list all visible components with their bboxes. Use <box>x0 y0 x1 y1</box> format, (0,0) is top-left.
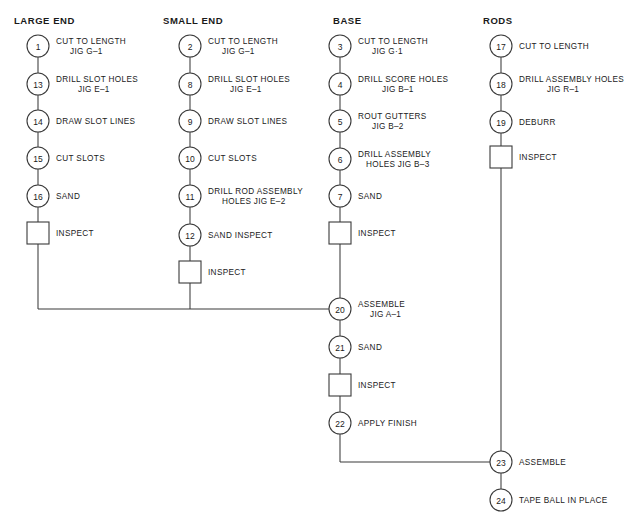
node-label: DRILL SLOT HOLES <box>208 75 290 84</box>
node-label: INSPECT <box>358 381 396 390</box>
node-label: CUT SLOTS <box>56 154 105 163</box>
process-node-12-small-end[interactable]: 12SAND INSPECT <box>179 224 273 246</box>
node-label: APPLY FINISH <box>358 419 417 428</box>
process-node-20-assembly[interactable]: 20ASSEMBLEJIG A–1 <box>329 298 405 320</box>
node-label: CUT TO LENGTH <box>358 37 428 46</box>
node-sublabel: JIG G–1 <box>70 47 103 56</box>
inspection-square <box>329 374 351 396</box>
node-label: ASSEMBLE <box>358 300 405 309</box>
node-number: 2 <box>188 42 193 52</box>
node-label: CUT TO LENGTH <box>208 37 278 46</box>
process-node-23-final[interactable]: 23ASSEMBLE <box>490 451 566 473</box>
node-label: CUT TO LENGTH <box>519 42 589 51</box>
node-sublabel: JIG A–1 <box>370 310 401 319</box>
inspection-square <box>179 261 201 283</box>
node-number: 12 <box>185 231 195 241</box>
assembly-chain-layer: 20ASSEMBLEJIG A–121SANDINSPECT22APPLY FI… <box>329 298 417 434</box>
node-sublabel: JIG E–1 <box>230 85 262 94</box>
process-node-9-small-end[interactable]: 9DRAW SLOT LINES <box>179 110 288 132</box>
process-node-11-small-end[interactable]: 11DRILL ROD ASSEMBLYHOLES JIG E–2 <box>179 185 303 207</box>
node-number: 3 <box>338 42 343 52</box>
node-sublabel: JIG G·1 <box>372 47 403 56</box>
node-label: ROUT GUTTERS <box>358 112 427 121</box>
node-sublabel: JIG E–1 <box>78 85 110 94</box>
node-label: INSPECT <box>358 229 396 238</box>
process-node-17-rods[interactable]: 17CUT TO LENGTH <box>490 35 589 57</box>
node-label: INSPECT <box>519 153 557 162</box>
connector-lines-layer <box>38 309 490 462</box>
process-node-10-small-end[interactable]: 10CUT SLOTS <box>179 147 257 169</box>
process-node-13-large-end[interactable]: 13DRILL SLOT HOLESJIG E–1 <box>27 73 138 95</box>
node-number: 18 <box>496 80 506 90</box>
final-chain-layer: 23ASSEMBLE24TAPE BALL IN PLACE <box>490 451 608 511</box>
flow-chart-canvas: LARGE END1CUT TO LENGTHJIG G–113DRILL SL… <box>0 0 635 526</box>
process-columns-layer: LARGE END1CUT TO LENGTHJIG G–113DRILL SL… <box>14 15 624 462</box>
process-node-2-small-end[interactable]: 2CUT TO LENGTHJIG G–1 <box>179 35 278 57</box>
process-node-15-large-end[interactable]: 15CUT SLOTS <box>27 147 105 169</box>
process-node-1-large-end[interactable]: 1CUT TO LENGTHJIG G–1 <box>27 35 126 57</box>
process-node-inspect-base[interactable]: INSPECT <box>329 222 396 244</box>
process-node-24-final[interactable]: 24TAPE BALL IN PLACE <box>490 489 608 511</box>
node-label: SAND <box>56 192 80 201</box>
node-number: 6 <box>338 155 343 165</box>
process-node-inspect-small-end[interactable]: INSPECT <box>179 261 246 283</box>
process-node-3-base[interactable]: 3CUT TO LENGTHJIG G·1 <box>329 35 428 57</box>
node-number: 4 <box>338 80 343 90</box>
process-node-8-small-end[interactable]: 8DRILL SLOT HOLESJIG E–1 <box>179 73 290 95</box>
node-label: DRILL ROD ASSEMBLY <box>208 187 303 196</box>
node-number: 21 <box>335 343 345 353</box>
node-sublabel: HOLES JIG E–2 <box>222 197 286 206</box>
column-header-small-end: SMALL END <box>163 15 223 26</box>
node-number: 13 <box>33 80 43 90</box>
process-node-inspect-rods[interactable]: INSPECT <box>490 146 557 168</box>
node-number: 14 <box>33 117 43 127</box>
process-node-21-assembly[interactable]: 21SAND <box>329 336 382 358</box>
node-label: DRAW SLOT LINES <box>208 117 288 126</box>
node-number: 5 <box>338 117 343 127</box>
node-number: 10 <box>185 154 195 164</box>
node-label: DRILL ASSEMBLY <box>358 150 431 159</box>
process-node-inspect-large-end[interactable]: INSPECT <box>27 222 94 244</box>
node-label: INSPECT <box>208 268 246 277</box>
inspection-square <box>329 222 351 244</box>
node-number: 8 <box>188 80 193 90</box>
node-label: DRILL ASSEMBLY HOLES <box>519 75 624 84</box>
node-number: 19 <box>496 118 506 128</box>
node-label: TAPE BALL IN PLACE <box>519 496 608 505</box>
column-header-large-end: LARGE END <box>14 15 75 26</box>
node-label: DRILL SCORE HOLES <box>358 75 448 84</box>
node-number: 23 <box>496 458 506 468</box>
process-node-16-large-end[interactable]: 16SAND <box>27 185 80 207</box>
process-node-inspect-assembly[interactable]: INSPECT <box>329 374 396 396</box>
process-node-18-rods[interactable]: 18DRILL ASSEMBLY HOLESJIG R–1 <box>490 73 624 95</box>
process-node-19-rods[interactable]: 19DEBURR <box>490 111 556 133</box>
node-label: INSPECT <box>56 229 94 238</box>
node-label: DRILL SLOT HOLES <box>56 75 138 84</box>
process-node-14-large-end[interactable]: 14DRAW SLOT LINES <box>27 110 136 132</box>
node-label: SAND <box>358 343 382 352</box>
node-label: CUT TO LENGTH <box>56 37 126 46</box>
inspection-square <box>490 146 512 168</box>
process-node-4-base[interactable]: 4DRILL SCORE HOLESJIG B–1 <box>329 73 448 95</box>
node-number: 17 <box>496 42 506 52</box>
node-number: 1 <box>36 42 41 52</box>
node-number: 20 <box>335 305 345 315</box>
column-header-rods: RODS <box>483 15 513 26</box>
node-number: 9 <box>188 117 193 127</box>
process-node-5-base[interactable]: 5ROUT GUTTERSJIG B–2 <box>329 110 427 132</box>
process-node-22-assembly[interactable]: 22APPLY FINISH <box>329 412 417 434</box>
node-sublabel: JIG G–1 <box>222 47 255 56</box>
process-node-6-base[interactable]: 6DRILL ASSEMBLYHOLES JIG B–3 <box>329 148 431 170</box>
node-number: 15 <box>33 154 43 164</box>
node-number: 16 <box>33 192 43 202</box>
inspection-square <box>27 222 49 244</box>
process-flow-diagram: LARGE END1CUT TO LENGTHJIG G–113DRILL SL… <box>0 0 635 526</box>
node-sublabel: JIG B–2 <box>372 122 404 131</box>
column-header-base: BASE <box>333 15 362 26</box>
node-number: 22 <box>335 419 345 429</box>
node-number: 24 <box>496 496 506 506</box>
node-label: ASSEMBLE <box>519 458 566 467</box>
process-node-7-base[interactable]: 7SAND <box>329 185 382 207</box>
node-label: DRAW SLOT LINES <box>56 117 136 126</box>
node-number: 11 <box>186 192 195 202</box>
